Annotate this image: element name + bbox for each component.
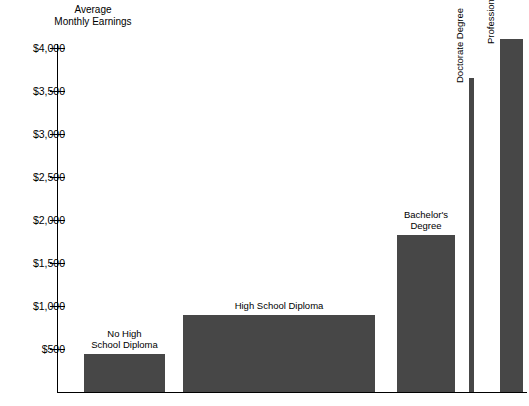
y-axis-tick-label: $3,000 (17, 129, 65, 139)
y-axis-tick: $2,500 (0, 177, 65, 178)
y-axis-tick: $4,000 (0, 48, 65, 49)
bar (469, 78, 474, 392)
y-axis-tick-label: $2,000 (17, 215, 65, 225)
y-axis-tick-label: $1,500 (17, 258, 65, 268)
y-axis-tick: $3,500 (0, 91, 65, 92)
x-axis-line (57, 392, 527, 393)
y-axis-tick: $2,000 (0, 220, 65, 221)
bar (500, 39, 523, 392)
y-axis-tick: $500 (0, 349, 65, 350)
y-axis-tick-label: $500 (17, 344, 65, 354)
bar (397, 235, 455, 392)
y-axis-tick: $3,000 (0, 134, 65, 135)
y-axis-tick-label: $2,500 (17, 172, 65, 182)
y-axis-tick: $1,500 (0, 263, 65, 264)
bar-label: No High School Diploma (77, 328, 172, 350)
bar (183, 315, 375, 392)
y-axis-tick-label: $1,000 (17, 301, 65, 311)
bar-chart: Average Monthly Earnings $4,000$3,500$3,… (0, 0, 529, 406)
y-axis-tick-label: $3,500 (17, 86, 65, 96)
y-axis-title: Average Monthly Earnings (18, 4, 168, 28)
bar-label: Doctorate Degree (454, 8, 465, 83)
bar (84, 354, 165, 392)
bar-label: Bachelor's Degree (386, 209, 466, 231)
y-axis-tick: $1,000 (0, 306, 65, 307)
bar-label: Professional Degree (485, 0, 496, 44)
bar-label: High School Diploma (183, 300, 375, 311)
y-axis-tick-label: $4,000 (17, 43, 65, 53)
